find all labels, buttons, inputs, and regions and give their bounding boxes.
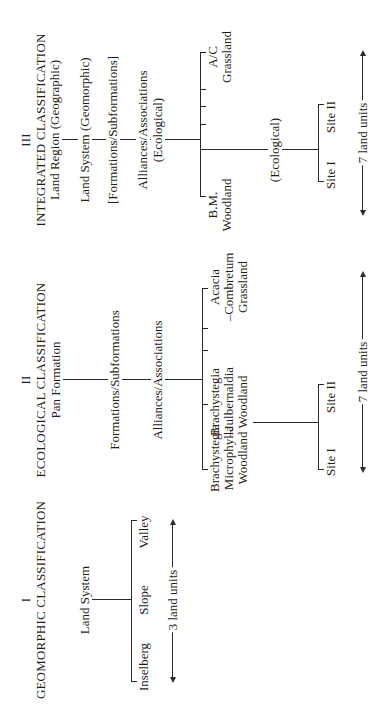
span-label: 7 land units <box>356 340 370 405</box>
level-node: Pan Formation <box>49 342 63 419</box>
site-node: Site I <box>324 448 338 476</box>
level-node: [Formations/Subformations] <box>106 54 120 206</box>
section-title: INTEGRATED CLASSIFICATION <box>34 33 48 226</box>
site-bracket-line <box>318 104 319 182</box>
bracket-line <box>131 520 132 682</box>
arrow-left-icon <box>360 210 366 216</box>
arrow-right-icon <box>360 271 366 277</box>
leaf-line: Grassland <box>220 31 234 83</box>
leaf-line: Brachystegia <box>208 367 222 437</box>
root-node: Land System <box>78 566 92 634</box>
level-node: Land System (Geomorphic) <box>78 55 92 204</box>
connector-line <box>92 599 132 600</box>
leaf-node: B.M. Woodland <box>206 178 234 231</box>
arrow-right-icon <box>170 519 176 525</box>
arrow-left-icon <box>360 467 366 473</box>
site-node: Site I <box>324 161 338 189</box>
leaf-line: Grassland <box>236 253 250 322</box>
leaf-node: Acacia –Combretum Grassland <box>208 253 250 322</box>
arrow-left-icon <box>170 677 176 683</box>
bracket-line <box>202 288 203 470</box>
classification-diagram: I GEOMORPHIC CLASSIFICATION Land System … <box>0 0 387 727</box>
site-bracket-line <box>318 384 319 470</box>
section-title: ECOLOGICAL CLASSIFICATION <box>34 283 48 478</box>
span-label: 3 land units <box>166 568 180 633</box>
leaf-line: –Julbernaldia <box>222 367 236 437</box>
leaf-line: B.M. <box>206 178 220 231</box>
site-node: Site II <box>324 381 338 413</box>
leaf-line: Acacia <box>208 253 222 322</box>
link-label: (Ecological) <box>268 116 282 184</box>
leaf-node: Slope <box>137 585 151 615</box>
level-sublabel: (Ecological) <box>151 96 165 164</box>
section-numeral: III <box>19 133 33 147</box>
leaf-line: –Combretum <box>222 253 236 322</box>
bracket-tick <box>200 124 206 125</box>
arrow-right-icon <box>360 50 366 56</box>
leaf-node: A/C Grassland <box>206 31 234 83</box>
level-node: Alliances/Associations <box>136 68 150 191</box>
site-node: Site II <box>324 101 338 133</box>
bracket-tick <box>202 350 208 351</box>
level-node: Formations/Subformations <box>108 308 122 451</box>
connector-line <box>253 422 319 423</box>
leaf-node: Inselberg <box>137 643 151 691</box>
section-numeral: II <box>19 375 33 384</box>
leaf-line: A/C <box>206 31 220 83</box>
leaf-line: Woodland <box>236 367 250 437</box>
leaf-line: Woodland <box>220 178 234 231</box>
trunk-line <box>63 379 202 380</box>
bracket-tick <box>200 106 206 107</box>
level-node: Land Region (Geographic) <box>48 58 62 202</box>
leaf-node: Valley <box>137 515 151 548</box>
span-label: 7 land units <box>356 101 370 166</box>
section-numeral: I <box>19 598 33 603</box>
bracket-tick <box>202 328 208 329</box>
level-node: Alliances/Associations <box>151 318 165 441</box>
connector-line <box>200 149 318 150</box>
leaf-node: Brachystegia –Julbernaldia Woodland <box>208 367 250 437</box>
bracket-tick <box>200 89 206 90</box>
section-title: GEOMORPHIC CLASSIFICATION <box>34 501 48 699</box>
